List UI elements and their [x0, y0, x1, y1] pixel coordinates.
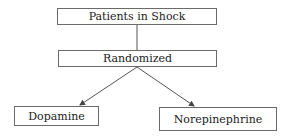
node-label: Randomized	[103, 52, 172, 65]
flowchart: Patients in Shock Randomized Dopamine No…	[0, 0, 287, 137]
node-label: Dopamine	[28, 110, 85, 123]
arrow-to-norepinephrine	[137, 67, 194, 106]
node-patients-in-shock: Patients in Shock	[57, 8, 217, 25]
node-label: Patients in Shock	[89, 10, 186, 23]
node-norepinephrine: Norepinephrine	[159, 107, 277, 131]
node-label: Norepinephrine	[174, 113, 263, 126]
node-dopamine: Dopamine	[14, 106, 99, 126]
arrow-to-dopamine	[80, 67, 137, 105]
node-randomized: Randomized	[58, 50, 217, 67]
